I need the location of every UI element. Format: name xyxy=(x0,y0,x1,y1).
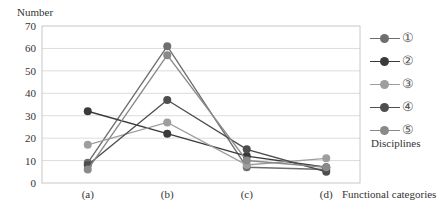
data-point xyxy=(163,51,171,59)
data-point xyxy=(163,96,171,104)
series-line xyxy=(88,55,327,169)
series-5 xyxy=(84,51,331,173)
legend-item-4: ④ xyxy=(370,95,447,118)
legend-marker-icon xyxy=(370,79,400,89)
data-point xyxy=(163,130,171,138)
x-tick-label: (c) xyxy=(241,188,254,201)
data-point xyxy=(84,141,92,149)
data-point xyxy=(243,145,251,153)
legend-label: ④ xyxy=(402,99,414,115)
legend: ① ② ③ ④ ⑤ xyxy=(370,26,447,141)
x-tick-label: (b) xyxy=(161,188,174,201)
data-point xyxy=(322,154,330,162)
x-axis-ticks: (a)(b)(c)(d) xyxy=(82,188,333,201)
legend-label: ① xyxy=(402,30,414,46)
legend-title: Disciplines xyxy=(371,137,421,149)
legend-label: ③ xyxy=(402,76,414,92)
data-point xyxy=(163,42,171,50)
y-tick-label: 20 xyxy=(25,132,37,144)
y-axis-ticks: 010203040506070 xyxy=(25,20,37,189)
y-axis-title: Number xyxy=(17,6,53,18)
y-tick-label: 50 xyxy=(25,65,37,77)
legend-item-2: ② xyxy=(370,49,447,72)
series-lines xyxy=(84,42,331,176)
y-tick-label: 30 xyxy=(25,110,37,122)
x-tick-label: (a) xyxy=(82,188,95,201)
legend-item-3: ③ xyxy=(370,72,447,95)
legend-marker-icon xyxy=(370,33,400,43)
data-point xyxy=(84,166,92,174)
legend-marker-icon xyxy=(370,56,400,66)
y-tick-label: 70 xyxy=(25,20,37,32)
data-point xyxy=(84,107,92,115)
legend-label: ⑤ xyxy=(402,122,414,138)
data-point xyxy=(163,118,171,126)
data-point xyxy=(243,157,251,165)
y-tick-label: 60 xyxy=(25,42,37,54)
y-tick-label: 10 xyxy=(25,155,37,167)
legend-label: ② xyxy=(402,53,414,69)
series-3 xyxy=(84,118,331,169)
data-point xyxy=(322,163,330,171)
x-tick-label: (d) xyxy=(320,188,333,201)
y-tick-label: 40 xyxy=(25,87,37,99)
y-tick-label: 0 xyxy=(31,177,37,189)
legend-item-1: ① xyxy=(370,26,447,49)
series-line xyxy=(88,122,327,165)
series-line xyxy=(88,111,327,167)
x-axis-title: Functional categories xyxy=(342,188,436,200)
legend-marker-icon xyxy=(370,125,400,135)
legend-marker-icon xyxy=(370,102,400,112)
